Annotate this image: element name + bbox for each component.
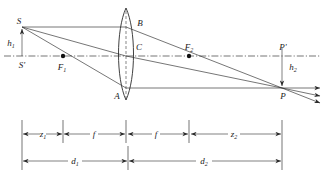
front-focal-point-dot [61,54,65,58]
ray-focal-incident [22,27,126,88]
ray-parallel-extended [282,88,320,103]
optics-ray-diagram: S S' h1 F1 B C A F2 P' h2 P [0,0,325,176]
ray-chief-incident [22,27,126,56]
label-source-S: S [17,16,22,26]
dim-label-z2: z2 [230,129,238,140]
label-lens-top-B: B [137,18,143,28]
ray-chief-extended [282,88,320,96]
converging-lens [119,8,134,100]
back-focal-point-dot [187,54,191,58]
dim-label-f-left: f [93,129,97,139]
ray-chief-refracted [126,56,282,88]
label-object-height-h1: h1 [7,38,15,49]
label-image-height-h2: h2 [289,62,297,73]
label-image-point-P: P [279,91,286,101]
label-lens-center-C: C [136,42,143,52]
label-image-axis-P-prime: P' [278,42,287,52]
label-back-focal-F2: F2 [184,42,194,53]
label-front-focal-F1: F1 [57,62,67,73]
dimension-row-lower: d1 d2 [23,156,281,167]
dim-label-d2: d2 [200,156,208,167]
incident-rays-group [22,27,126,88]
diagram-canvas: S S' h1 F1 B C A F2 P' h2 P [0,0,325,176]
dim-label-z1: z1 [39,129,47,140]
label-source-axis-S-prime: S' [19,60,27,70]
label-lens-bottom-A: A [113,91,120,101]
dimension-row-upper: z1 f f z2 [23,129,281,140]
dim-label-f-right: f [155,129,159,139]
ray-parallel-refracted [126,27,282,88]
lens-right-surface [126,8,134,100]
dimension-ticks-group [22,120,282,170]
dim-label-d1: d1 [71,156,79,167]
